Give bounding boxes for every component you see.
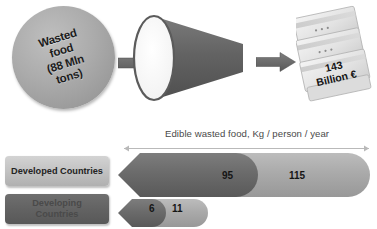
- legend-developed-label: Developed Countries: [11, 166, 103, 176]
- bar-developed-countries[interactable]: [118, 153, 370, 197]
- chart-axis-title: Edible wasted food, Kg / person / year: [122, 128, 372, 139]
- legend-developing-label: Developing Countries: [11, 198, 103, 220]
- arrow-right-icon: [256, 52, 296, 72]
- wasted-food-circle: Wasted food (88 Mln tons): [12, 6, 115, 109]
- legend-developing-countries[interactable]: Developing Countries: [5, 194, 109, 224]
- legend-developed-countries[interactable]: Developed Countries: [5, 156, 109, 186]
- flow-diagram: Wasted food (88 Mln tons): [0, 0, 377, 120]
- axis-double-arrow-icon: [118, 144, 375, 153]
- bar-developing-countries[interactable]: [118, 199, 208, 227]
- wasted-food-circle-label: Wasted food (88 Mln tons): [0, 0, 128, 122]
- edible-waste-chart: Edible wasted food, Kg / person / year D…: [0, 120, 377, 229]
- infographic-root: Wasted food (88 Mln tons): [0, 0, 377, 229]
- money-stack: [296, 5, 374, 108]
- funnel-cone: [131, 10, 245, 106]
